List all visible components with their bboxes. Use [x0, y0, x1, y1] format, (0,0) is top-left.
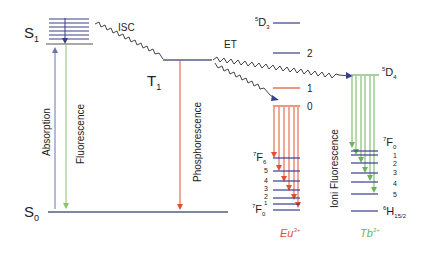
tb-7f4-label: 4	[393, 180, 397, 187]
tb-7f5-label: 5	[393, 191, 397, 198]
et-tb-wavy-arrow	[213, 57, 350, 78]
energy-diagram: S1 S0 Absorption Fluorescence ISC T1 Pho…	[0, 0, 428, 254]
eu-7f5-label: 5	[264, 167, 268, 174]
eu-7f2-label: 2	[264, 193, 268, 200]
eu-ion-label: Eu3+	[280, 227, 301, 239]
t1-label: T1	[147, 72, 161, 92]
phosphorescence-label: Phosphorescence	[192, 102, 203, 182]
tb-6h-label: 6H15/2	[383, 205, 407, 219]
tb-ion-label: Tb3+	[360, 227, 380, 239]
ion-fluorescence-label: Ioni Fluorescence	[329, 129, 340, 208]
eu-5d2-label: 2	[307, 48, 313, 59]
s0-label: S0	[24, 203, 39, 223]
isc-label: ISC	[118, 22, 135, 33]
tb-7f3-label: 3	[393, 169, 397, 176]
eu-5d0-label: 0	[307, 101, 313, 112]
tb-5d4-label: 5D4	[382, 66, 397, 80]
s1-label: S1	[24, 24, 39, 44]
eu-7f1-label: 1	[264, 200, 268, 206]
eu-5d1-label: 1	[307, 83, 313, 94]
tb-7f1-label: 1	[393, 152, 397, 159]
s1-level-stack	[46, 19, 93, 44]
tb-7f0-label: 7F0	[383, 136, 397, 150]
et-eu-arrowhead	[271, 95, 279, 101]
et-eu-wavy-arrow	[215, 63, 276, 99]
tb-7f2-label: 2	[393, 160, 397, 167]
eu-7f4-label: 4	[264, 177, 268, 184]
et-label: ET	[224, 39, 237, 50]
eu-7f3-label: 3	[264, 185, 268, 192]
absorption-label: Absorption	[41, 108, 52, 156]
fluorescence-label: Fluorescence	[75, 104, 86, 164]
eu-7f-levels	[273, 158, 300, 210]
eu-7f6-label: 7F6	[253, 151, 267, 165]
eu-5d3-label: 5D3	[255, 16, 270, 30]
